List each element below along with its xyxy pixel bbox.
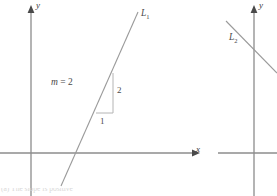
left-x-axis-label: x — [196, 144, 200, 154]
line-l2-label-subscript: 2 — [234, 37, 237, 44]
left-y-axis-label: y — [36, 0, 40, 10]
right-y-axis-arrow-icon — [251, 5, 258, 13]
slope-variable: m — [51, 77, 58, 87]
line-l1-label-subscript: 1 — [146, 13, 149, 20]
line-l2-label: L2 — [229, 32, 238, 44]
slope-annotation: m = 2 — [51, 77, 73, 87]
caption-partial: (a) The slope is positive — [1, 188, 73, 193]
line-l1 — [61, 12, 138, 186]
figure-canvas — [0, 0, 277, 196]
caption-clip: (a) The slope is positive — [0, 188, 277, 196]
left-y-axis-arrow-icon — [28, 5, 35, 13]
run-label: 1 — [100, 116, 105, 126]
right-panel-group — [218, 5, 277, 196]
left-panel-group — [0, 5, 200, 196]
right-y-axis-label: y — [259, 0, 263, 10]
slope-value: = 2 — [60, 77, 72, 87]
line-l1-label: L1 — [141, 8, 150, 20]
line-l2 — [226, 21, 277, 73]
rise-label: 2 — [117, 85, 122, 95]
slope-figure: x y L1 m = 2 2 1 y L2 (a) The slope is p… — [0, 0, 277, 196]
